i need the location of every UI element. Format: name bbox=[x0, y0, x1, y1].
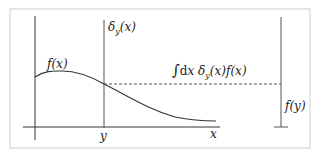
x-axis-label: x bbox=[210, 128, 217, 140]
diagram-canvas bbox=[0, 0, 318, 156]
integral-label: ∫dx δy(x)f(x) bbox=[172, 63, 247, 80]
fy-label: f(y) bbox=[285, 100, 306, 112]
y-tick-label: y bbox=[100, 130, 107, 142]
fx-label: f(x) bbox=[47, 58, 68, 70]
delta-label: δy(x) bbox=[108, 21, 136, 36]
